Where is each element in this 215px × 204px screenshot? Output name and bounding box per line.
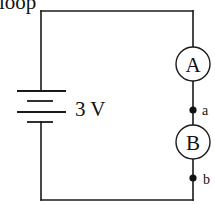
battery-voltage-label: 3 V	[75, 97, 106, 121]
meter-b: B	[176, 125, 210, 159]
node-a-dot	[189, 106, 196, 113]
battery-symbol	[17, 91, 66, 122]
circuit-diagram: loop 3 V A a B b	[0, 0, 215, 204]
node-a-label: a	[202, 103, 209, 118]
caption-text: loop	[0, 0, 36, 14]
node-b-label: b	[203, 172, 210, 187]
wires	[41, 11, 193, 200]
meter-b-label: B	[186, 131, 200, 155]
meter-a: A	[176, 47, 210, 81]
meter-a-label: A	[185, 53, 201, 77]
node-b-dot	[189, 174, 196, 181]
